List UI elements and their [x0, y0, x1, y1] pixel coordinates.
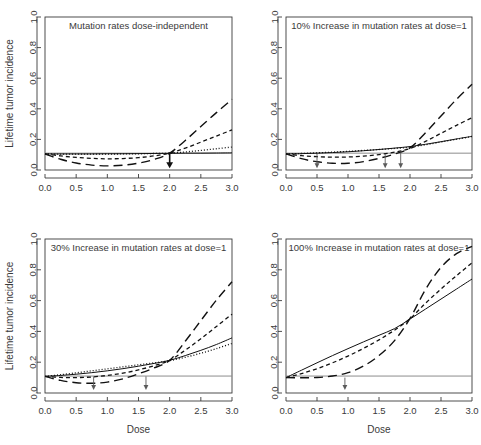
x-tick-label: 1.0: [341, 182, 354, 193]
curve-group: [286, 84, 472, 163]
dose-response-curve-solid: [286, 279, 472, 378]
x-tick-label: 0.5: [70, 405, 83, 416]
x-tick-label: 3.0: [465, 405, 478, 416]
y-tick-label: 0.8: [28, 41, 39, 54]
x-tick-label: 0.0: [38, 405, 51, 416]
down-arrow-annotation: [166, 152, 173, 168]
x-tick-label: 1.5: [132, 405, 145, 416]
y-axis: 0.00.20.40.60.81.0: [28, 10, 42, 176]
y-axis: 0.00.20.40.60.81.0: [269, 10, 283, 176]
x-axis: 0.00.51.01.52.02.53.0: [38, 397, 238, 416]
x-tick-label: 1.0: [341, 405, 354, 416]
y-tick-label: 0.6: [269, 72, 280, 85]
x-axis: 0.00.51.01.52.02.53.0: [279, 397, 478, 416]
x-tick-label: 3.0: [225, 182, 238, 193]
x-tick-label: 3.0: [465, 182, 478, 193]
y-tick-label: 1.0: [269, 232, 280, 245]
x-tick-label: 0.0: [279, 405, 292, 416]
plot-panel-4: 0.00.20.40.60.81.00.00.51.01.52.02.53.01…: [241, 222, 481, 445]
y-tick-label: 1.0: [28, 232, 39, 245]
y-tick-label: 0.2: [28, 356, 39, 369]
dose-response-curve-long-dash: [45, 282, 232, 384]
dose-response-curve-solid: [45, 338, 232, 377]
down-arrow-annotation: [144, 376, 149, 390]
y-axis-title: Lifetime tumor incidence: [4, 261, 15, 370]
y-tick-label: 0.0: [28, 386, 39, 399]
x-tick-label: 1.5: [372, 182, 385, 193]
y-axis: 0.00.20.40.60.81.0: [28, 232, 42, 399]
y-tick-label: 0.0: [269, 386, 280, 399]
x-tick-label: 2.0: [163, 405, 176, 416]
x-tick-label: 2.0: [403, 405, 416, 416]
x-tick-label: 2.5: [434, 405, 447, 416]
x-tick-label: 2.5: [434, 182, 447, 193]
y-tick-label: 0.2: [269, 133, 280, 146]
y-tick-label: 0.6: [269, 294, 280, 307]
y-tick-label: 0.8: [269, 263, 280, 276]
x-tick-label: 2.0: [163, 182, 176, 193]
x-axis-title: Dose: [367, 424, 391, 435]
x-tick-label: 0.5: [310, 182, 323, 193]
x-tick-label: 2.0: [403, 182, 416, 193]
x-tick-label: 1.0: [101, 405, 114, 416]
y-tick-label: 0.8: [269, 41, 280, 54]
panel-title: 100% Increase in mutation rates at dose=…: [289, 242, 470, 253]
x-axis-title: Dose: [127, 424, 151, 435]
dose-response-curve-long-dash: [286, 84, 472, 163]
plot-frame: [45, 17, 232, 170]
down-arrow-annotation: [343, 378, 348, 390]
dose-response-curve-short-dash: [286, 118, 472, 158]
y-tick-label: 0.2: [269, 356, 280, 369]
figure-canvas: 0.00.20.40.60.81.00.00.51.01.52.02.53.0M…: [0, 0, 481, 445]
down-arrow-annotation: [398, 152, 403, 168]
dose-response-curve-solid: [286, 136, 472, 154]
curve-group: [45, 282, 232, 384]
dose-response-curve-short-dash: [286, 263, 472, 378]
y-tick-label: 0.2: [28, 133, 39, 146]
y-tick-label: 0.4: [28, 325, 39, 338]
dose-response-curve-dotted: [45, 343, 232, 376]
plot-panel-2: 0.00.20.40.60.81.00.00.51.01.52.02.53.01…: [241, 0, 481, 222]
panel-title: Mutation rates dose-independent: [69, 20, 208, 31]
y-tick-label: 1.0: [269, 10, 280, 23]
x-tick-label: 0.5: [70, 182, 83, 193]
x-tick-label: 0.0: [38, 182, 51, 193]
y-tick-label: 0.4: [28, 102, 39, 115]
x-axis: 0.00.51.01.52.02.53.0: [279, 174, 478, 193]
plot-panel-3: 0.00.20.40.60.81.00.00.51.01.52.02.53.03…: [0, 222, 241, 445]
x-tick-label: 2.5: [194, 405, 207, 416]
curve-group: [45, 99, 232, 166]
y-tick-label: 1.0: [28, 10, 39, 23]
y-tick-label: 0.4: [269, 325, 280, 338]
x-tick-label: 3.0: [225, 405, 238, 416]
y-axis-title: Lifetime tumor incidence: [4, 39, 15, 148]
x-tick-label: 1.5: [372, 405, 385, 416]
dose-response-curve-long-dash: [45, 99, 232, 166]
y-tick-label: 0.6: [28, 294, 39, 307]
panel-title: 30% Increase in mutation rates at dose=1: [51, 242, 227, 253]
x-tick-label: 1.0: [101, 182, 114, 193]
y-tick-label: 0.6: [28, 72, 39, 85]
panel-title: 10% Increase in mutation rates at dose=1: [291, 20, 467, 31]
x-tick-label: 0.0: [279, 182, 292, 193]
y-tick-label: 0.0: [28, 163, 39, 176]
dose-response-curve-long-dash: [286, 246, 472, 377]
dose-response-curve-dotted: [286, 136, 472, 153]
dose-response-curve-short-dash: [45, 130, 232, 159]
x-axis: 0.00.51.01.52.02.53.0: [38, 174, 238, 193]
y-tick-label: 0.8: [28, 263, 39, 276]
x-tick-label: 0.5: [310, 405, 323, 416]
x-tick-label: 2.5: [194, 182, 207, 193]
x-tick-label: 1.5: [132, 182, 145, 193]
y-axis: 0.00.20.40.60.81.0: [269, 232, 283, 399]
plot-panel-1: 0.00.20.40.60.81.00.00.51.01.52.02.53.0M…: [0, 0, 241, 222]
curve-group: [286, 246, 472, 377]
plot-frame: [286, 17, 472, 170]
y-tick-label: 0.4: [269, 102, 280, 115]
y-tick-label: 0.0: [269, 163, 280, 176]
dose-response-curve-short-dash: [45, 314, 232, 377]
